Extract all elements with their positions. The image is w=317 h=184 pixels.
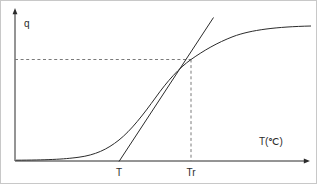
x-axis-label: T(℃) bbox=[259, 136, 283, 147]
x-tick-label-tr: Tr bbox=[186, 167, 196, 178]
y-axis-arrow-icon bbox=[13, 8, 18, 14]
y-axis-label: q bbox=[24, 18, 30, 29]
sigmoid-plot: q T(℃) T Tr bbox=[1, 1, 317, 184]
x-axis-arrow-icon bbox=[304, 159, 310, 164]
x-tick-label-t: T bbox=[116, 167, 122, 178]
figure-container: q T(℃) T Tr bbox=[0, 0, 317, 184]
tangent-line bbox=[119, 18, 214, 162]
